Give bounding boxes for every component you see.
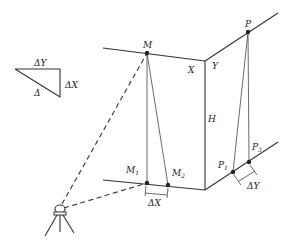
dy-dim-line	[239, 171, 255, 181]
bottom-left-edge	[103, 180, 205, 190]
dx-label: ΔX	[147, 198, 161, 208]
point-p3	[247, 160, 251, 164]
dx-dim-line	[145, 193, 167, 195]
instrument-base	[54, 212, 66, 215]
dx-tick-right	[167, 188, 168, 198]
tripod-leg-left	[45, 215, 57, 236]
label-m1: M1	[125, 165, 139, 176]
triangle-label-delta: Δ	[33, 88, 41, 98]
dx-tick-left	[145, 186, 146, 196]
sight-line-to-m	[62, 53, 147, 204]
tripod-leg-right	[63, 215, 74, 233]
point-m2	[166, 183, 170, 187]
m-to-m2-line	[147, 53, 168, 185]
legend-triangle: ΔY ΔX Δ	[15, 58, 78, 98]
label-y: Y	[212, 61, 219, 71]
label-m: M	[142, 40, 153, 50]
point-m1	[145, 181, 149, 185]
bottom-right-edge	[205, 142, 278, 190]
projection-lines	[147, 32, 249, 185]
survey-points	[145, 30, 251, 187]
triangle-label-dx: ΔX	[64, 80, 78, 90]
label-m2: M2	[171, 168, 185, 179]
dy-label: ΔY	[246, 181, 260, 191]
triangle-label-dy: ΔY	[33, 58, 47, 68]
label-h: H	[207, 114, 216, 124]
total-station-icon	[45, 205, 74, 236]
sight-line-to-m1	[64, 183, 147, 208]
label-p3: P3	[251, 142, 262, 153]
p-to-p1-line	[233, 32, 248, 172]
point-labels: M P M1 M2 P1 P3 X Y H	[125, 19, 262, 179]
survey-diagram: ΔY ΔX Δ ΔX ΔY	[0, 0, 293, 250]
point-p1	[231, 170, 235, 174]
top-left-edge	[103, 48, 205, 61]
dx-dimension: ΔX	[145, 186, 168, 208]
top-right-edge	[205, 13, 278, 61]
label-x: X	[187, 65, 195, 75]
p-to-p3-line	[248, 32, 249, 162]
label-p1: P1	[217, 160, 228, 171]
label-p: P	[244, 19, 252, 29]
point-m	[145, 51, 149, 55]
wall-edges	[103, 13, 278, 190]
point-p	[246, 30, 250, 34]
sight-lines	[62, 53, 147, 208]
